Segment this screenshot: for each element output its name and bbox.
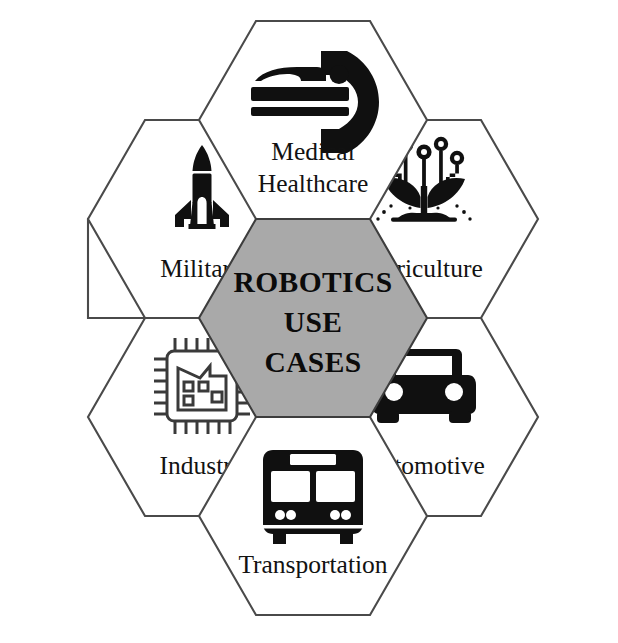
medical-healthcare-label-line2: Healthcare	[258, 169, 368, 198]
transportation-label: Transportation	[238, 550, 387, 579]
bus-front-icon	[263, 450, 363, 544]
center-title-line2: USE	[284, 306, 343, 338]
center-title-line1: ROBOTICS	[234, 266, 393, 298]
robotics-use-cases-diagram: Military	[0, 0, 618, 643]
medical-healthcare-label-line1: Medical	[271, 137, 355, 166]
hexagon-honeycomb-canvas: Military	[0, 0, 618, 643]
center-title-line3: CASES	[264, 346, 361, 378]
